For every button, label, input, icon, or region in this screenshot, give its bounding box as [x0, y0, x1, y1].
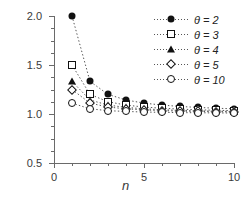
datapoint-theta-10 [230, 109, 238, 117]
x-tick-major: 10 [234, 163, 235, 168]
y-tick-label: 0.5 [27, 157, 42, 169]
legend-sample-theta-4 [154, 43, 188, 56]
y-tick-label: 1.5 [27, 59, 42, 71]
connector-theta-5 [72, 90, 234, 113]
chart-legend: θ = 2θ = 3θ = 4θ = 5θ = 10 [154, 12, 250, 87]
datapoint-theta-2 [87, 78, 94, 85]
legend-label-theta-10: θ = 10 [188, 74, 225, 86]
x-tick-minor [90, 163, 91, 166]
datapoint-theta-10 [104, 107, 112, 115]
x-tick-minor [72, 163, 73, 166]
legend-item-theta-3[interactable]: θ = 3 [154, 27, 250, 42]
datapoint-theta-10 [68, 99, 76, 107]
legend-label-theta-4: θ = 4 [188, 44, 219, 56]
x-tick-major: 5 [144, 163, 145, 168]
y-tick-label: 2.0 [27, 10, 42, 22]
open-circle-marker [167, 75, 175, 83]
x-tick-minor [180, 163, 181, 166]
legend-item-theta-2[interactable]: θ = 2 [154, 12, 250, 27]
x-tick-major: 0 [54, 163, 55, 168]
x-axis-title: n [0, 178, 251, 193]
legend-item-theta-5[interactable]: θ = 5 [154, 57, 250, 72]
open-square-marker [167, 30, 175, 38]
datapoint-theta-10 [122, 107, 130, 115]
legend-label-theta-2: θ = 2 [188, 14, 219, 26]
datapoint-theta-10 [158, 108, 166, 116]
filled-triangle-marker [167, 46, 175, 53]
x-tick-minor [108, 163, 109, 166]
legend-label-theta-5: θ = 5 [188, 59, 219, 71]
legend-sample-theta-2 [154, 13, 188, 26]
datapoint-theta-10 [140, 108, 148, 116]
filled-circle-marker [168, 16, 175, 23]
datapoint-theta-10 [176, 109, 184, 117]
x-tick-minor [162, 163, 163, 166]
legend-item-theta-4[interactable]: θ = 4 [154, 42, 250, 57]
legend-item-theta-10[interactable]: θ = 10 [154, 72, 250, 87]
legend-label-theta-3: θ = 3 [188, 29, 219, 41]
chart-figure: 0.51.01.52.0 0510 E[Xmin]/x0 n θ = 2θ = … [0, 0, 251, 214]
datapoint-theta-10 [86, 105, 94, 113]
datapoint-theta-10 [194, 109, 202, 117]
datapoint-theta-2 [69, 13, 76, 20]
datapoint-theta-4 [68, 78, 76, 85]
y-tick-label: 1.0 [27, 108, 42, 120]
legend-sample-theta-10 [154, 73, 188, 86]
datapoint-theta-3 [68, 61, 76, 69]
x-tick-minor [126, 163, 127, 166]
legend-sample-theta-3 [154, 28, 188, 41]
x-tick-minor [216, 163, 217, 166]
open-diamond-marker [166, 59, 176, 69]
datapoint-theta-10 [212, 109, 220, 117]
legend-sample-theta-5 [154, 58, 188, 71]
x-tick-minor [198, 163, 199, 166]
